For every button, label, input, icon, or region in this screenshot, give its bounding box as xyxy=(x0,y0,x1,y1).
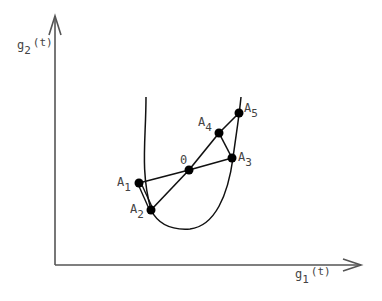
label-a1: A1 xyxy=(117,175,131,194)
segment-a2-o xyxy=(151,170,189,210)
y-axis-label: g2(t) xyxy=(17,36,53,57)
label-a4: A4 xyxy=(198,115,212,134)
label-o: 0 xyxy=(180,153,187,167)
label-a2: A2 xyxy=(130,202,144,221)
point-a5 xyxy=(235,109,244,118)
diagram-canvas: g2(t) g1(t) 0 A1 A2 A3 A4 A5 xyxy=(0,0,382,301)
convex-curve xyxy=(144,97,241,229)
point-a2 xyxy=(147,206,156,215)
axes xyxy=(49,16,361,271)
label-a3: A3 xyxy=(238,150,252,169)
point-a4 xyxy=(215,129,224,138)
point-a3 xyxy=(228,154,237,163)
segment-o-a4 xyxy=(189,133,219,170)
point-a1 xyxy=(135,179,144,188)
label-a5: A5 xyxy=(244,101,258,120)
segment-a1-o xyxy=(139,170,189,183)
x-axis-label: g1(t) xyxy=(295,265,331,286)
segment-o-a3 xyxy=(189,158,232,170)
